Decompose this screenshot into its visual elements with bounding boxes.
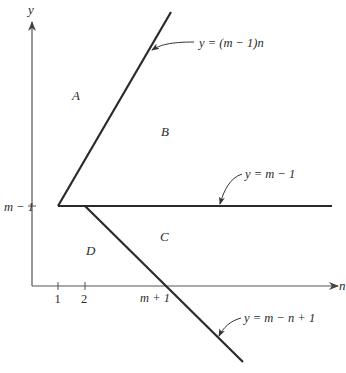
- region-label-b: B: [161, 124, 169, 139]
- n-axis-label: n: [339, 278, 346, 293]
- line-upper: [58, 12, 171, 206]
- x-tick-label-m-plus-1: m + 1: [140, 291, 170, 305]
- y-tick-label-m-minus-1: m − 1: [4, 200, 34, 214]
- region-label-c: C: [160, 229, 169, 244]
- x-tick-label-1: 1: [55, 292, 61, 306]
- region-label-a: A: [71, 88, 80, 103]
- line-horizontal-label: y = m − 1: [243, 167, 295, 181]
- line-lower-label: y = m − n + 1: [242, 311, 315, 325]
- line-upper-label: y = (m − 1)n: [197, 36, 264, 50]
- annotation-arrow-upper: [152, 42, 194, 50]
- x-tick-label-2: 2: [81, 292, 87, 306]
- region-diagram: y n m − 1 1 2 m + 1 y = (m − 1)n y = m −…: [0, 0, 346, 373]
- annotation-arrow-lower: [219, 318, 241, 336]
- y-axis-label: y: [26, 2, 34, 17]
- region-label-d: D: [85, 243, 96, 258]
- annotation-arrow-horizontal: [220, 174, 242, 204]
